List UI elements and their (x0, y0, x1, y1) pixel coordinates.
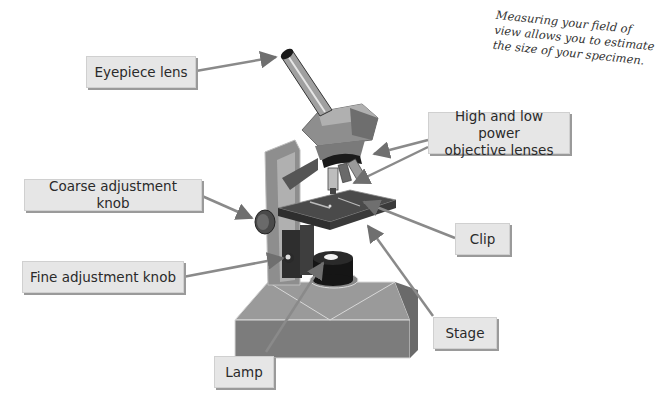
base (235, 282, 418, 358)
pointer-objective-2 (354, 147, 428, 183)
lamp (310, 251, 358, 288)
fine-knob (284, 253, 294, 263)
coarse-knob (255, 210, 275, 234)
label-clip: Clip (455, 223, 510, 255)
head (302, 104, 378, 160)
nosepiece (322, 154, 365, 194)
label-fine-adjustment-knob: Fine adjustment knob (22, 261, 184, 293)
pointer-clip (364, 202, 455, 238)
eyepiece-tube (279, 47, 332, 116)
label-objective-lenses: High and low power objective lenses (428, 112, 570, 154)
objective-line-1: High and low power (435, 108, 563, 142)
label-eyepiece-lens: Eyepiece lens (86, 56, 196, 88)
pointer-coarse (202, 196, 252, 218)
pointer-eyepiece (196, 57, 276, 71)
objective-line-2: objective lenses (445, 142, 554, 159)
label-stage: Stage (433, 317, 497, 349)
label-lamp: Lamp (214, 356, 274, 388)
label-coarse-adjustment-knob: Coarse adjustment knob (24, 179, 202, 211)
